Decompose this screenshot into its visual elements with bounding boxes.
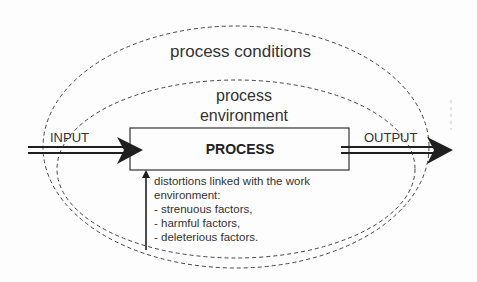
input-label: INPUT xyxy=(50,130,89,145)
process-environment-label: process environment xyxy=(174,86,314,126)
distortions-heading-line2: environment: xyxy=(154,188,310,202)
distortions-heading-line1: distortions linked with the work xyxy=(154,174,310,188)
process-label: PROCESS xyxy=(130,141,350,157)
distortions-text: distortions linked with the work environ… xyxy=(154,174,310,244)
distortion-item: - deleterious factors. xyxy=(154,230,310,244)
process-environment-label-line1: process xyxy=(174,86,314,106)
distortions-arrow xyxy=(142,170,150,250)
output-label: OUTPUT xyxy=(364,130,417,145)
process-conditions-label: process conditions xyxy=(0,42,477,62)
distortion-item: - harmful factors, xyxy=(154,216,310,230)
process-environment-label-line2: environment xyxy=(174,106,314,126)
distortion-item: - strenuous factors, xyxy=(154,202,310,216)
